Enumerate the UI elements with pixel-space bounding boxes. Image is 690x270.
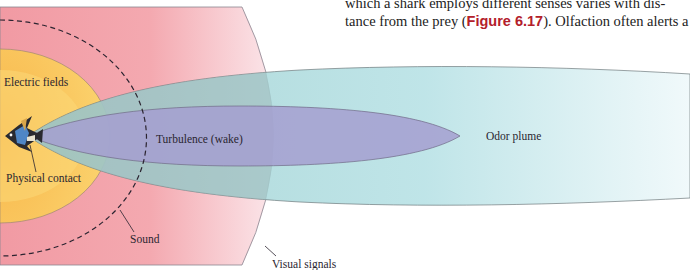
label-odor-plume: Odor plume (486, 130, 541, 143)
label-electric-fields: Electric fields (4, 76, 69, 88)
visual-signals-leader (265, 246, 276, 256)
label-visual-signals: Visual signals (272, 258, 337, 270)
label-turbulence-wake: Turbulence (wake) (156, 133, 243, 146)
label-physical-contact: Physical contact (6, 172, 82, 185)
label-sound: Sound (130, 233, 160, 245)
shark-senses-diagram: Electric fields Physical contact Turbule… (0, 0, 690, 270)
